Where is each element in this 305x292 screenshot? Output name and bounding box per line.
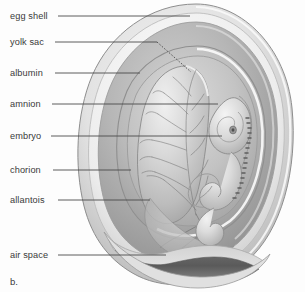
egg-cross-section-figure — [0, 0, 305, 292]
egg-illustration — [78, 4, 293, 288]
label-embryo: embryo — [10, 132, 41, 141]
label-albumin: albumin — [10, 69, 43, 78]
label-yolk-sac: yolk sac — [10, 38, 44, 47]
label-allantois: allantois — [10, 196, 45, 205]
panel-letter: b. — [10, 276, 18, 287]
embryo-pupil — [232, 128, 235, 132]
label-chorion: chorion — [10, 166, 41, 175]
label-amnion: amnion — [10, 100, 41, 109]
label-egg-shell: egg shell — [10, 12, 48, 21]
label-air-space: air space — [10, 251, 48, 260]
